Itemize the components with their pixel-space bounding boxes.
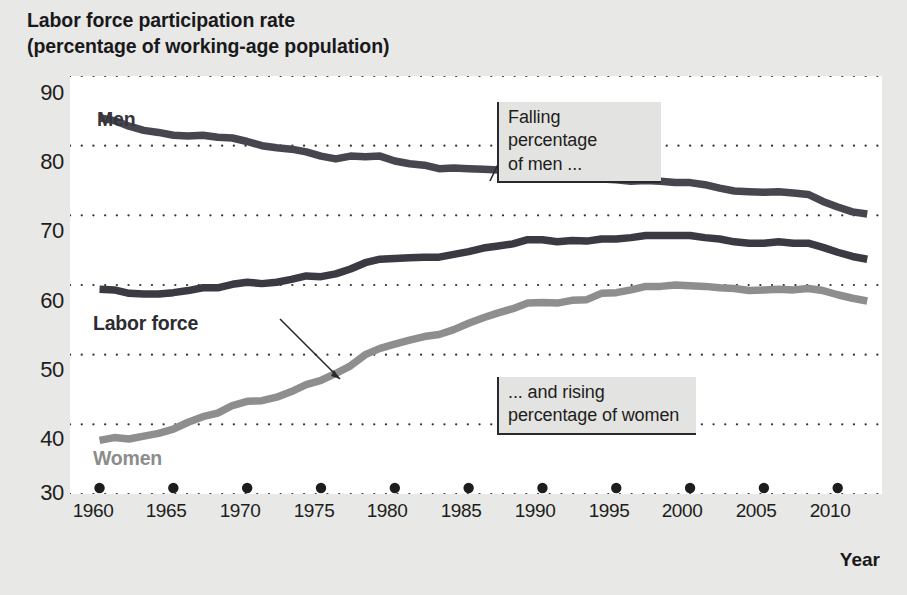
- x-tick-2005: 2005: [725, 500, 787, 522]
- x-tick-dot-1995: [611, 483, 621, 493]
- x-tick-2010: 2010: [799, 500, 861, 522]
- x-tick-dot-1975: [316, 483, 326, 493]
- x-tick-1995: 1995: [578, 500, 640, 522]
- chart-title: Labor force participation rate (percenta…: [27, 8, 587, 59]
- series-lines: [100, 118, 868, 441]
- y-tick-60: 60: [20, 288, 64, 314]
- x-tick-1970: 1970: [209, 500, 271, 522]
- x-tick-dot-2000: [685, 483, 695, 493]
- x-axis-title: Year: [840, 549, 880, 571]
- x-tick-dot-2005: [759, 483, 769, 493]
- series-label-labor-force: Labor force: [93, 312, 198, 335]
- x-tick-dot-2010: [833, 483, 843, 493]
- x-tick-dot-1985: [463, 483, 473, 493]
- leader-line-women: [280, 319, 340, 379]
- x-tick-dot-1990: [537, 483, 547, 493]
- series-line-men: [100, 118, 868, 214]
- y-tick-80: 80: [20, 149, 64, 175]
- series-label-men: Men: [97, 108, 135, 131]
- y-tick-40: 40: [20, 426, 64, 452]
- chart-canvas: [70, 76, 882, 494]
- y-tick-70: 70: [20, 218, 64, 244]
- y-tick-30: 30: [20, 480, 64, 506]
- annotation-women: ... and rising percentage of women: [497, 377, 696, 435]
- x-tick-dot-1980: [390, 483, 400, 493]
- x-tick-1965: 1965: [135, 500, 197, 522]
- y-tick-90: 90: [20, 80, 64, 106]
- x-tick-1960: 1960: [62, 500, 124, 522]
- annotation-men: Falling percentage of men ...: [497, 102, 661, 183]
- chart-page: Labor force participation rate (percenta…: [0, 0, 907, 595]
- series-label-women: Women: [93, 447, 162, 470]
- x-tick-dot-1965: [168, 483, 178, 493]
- x-tick-1990: 1990: [504, 500, 566, 522]
- x-tick-1980: 1980: [356, 500, 418, 522]
- chart-title-line-1: Labor force participation rate: [27, 8, 587, 34]
- chart-title-line-2: (percentage of working-age population): [27, 34, 587, 60]
- x-tick-dot-1960: [94, 483, 104, 493]
- x-tick-2000: 2000: [651, 500, 713, 522]
- x-tick-dot-1970: [242, 483, 252, 493]
- series-line-labor-force: [100, 236, 868, 295]
- plot-area: [70, 76, 882, 494]
- y-tick-50: 50: [20, 357, 64, 383]
- series-line-women: [100, 285, 868, 440]
- x-tick-1975: 1975: [283, 500, 345, 522]
- x-tick-dots: [94, 483, 843, 493]
- x-tick-1985: 1985: [430, 500, 492, 522]
